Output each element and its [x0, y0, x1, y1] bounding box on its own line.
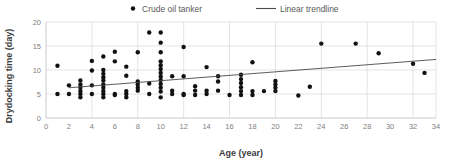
x-axis-title: Age (year) [219, 148, 263, 158]
data-point [239, 89, 243, 93]
x-tick-label: 28 [363, 122, 371, 131]
data-point [170, 74, 174, 78]
data-point [262, 89, 266, 93]
x-tick-label: 2 [67, 122, 71, 131]
data-point [124, 64, 128, 68]
x-tick-label: 26 [340, 122, 348, 131]
x-tick-label: 24 [317, 122, 325, 131]
data-point [67, 83, 71, 87]
data-point [159, 82, 163, 86]
data-point [101, 78, 105, 82]
x-tick-label: 4 [90, 122, 94, 131]
data-point [159, 95, 163, 99]
x-tick-label: 16 [225, 122, 233, 131]
data-point [90, 59, 94, 63]
data-point [354, 41, 358, 45]
data-point [250, 93, 254, 97]
x-tick-label: 10 [157, 122, 165, 131]
y-tick-label: 10 [33, 66, 41, 75]
data-point [204, 92, 208, 96]
data-point [55, 63, 59, 67]
scatter-chart: Crude oil tanker Linear trendline 051015… [0, 0, 450, 161]
data-point [296, 93, 300, 97]
x-tick-label: 14 [202, 122, 210, 131]
data-point [422, 71, 426, 75]
legend-label-trendline: Linear trendline [280, 4, 339, 14]
data-point [124, 95, 128, 99]
data-point [55, 92, 59, 96]
data-point [136, 50, 140, 54]
data-point [411, 62, 415, 66]
data-point [193, 93, 197, 97]
legend-label-series: Crude oil tanker [142, 4, 202, 14]
y-tick-label: 5 [37, 90, 41, 99]
x-tick-label: 12 [179, 122, 187, 131]
x-tick-label: 18 [248, 122, 256, 131]
y-tick-label: 20 [33, 18, 41, 27]
x-tick-label: 20 [271, 122, 279, 131]
data-point [204, 65, 208, 69]
data-point [170, 92, 174, 96]
data-point [159, 71, 163, 75]
data-point [239, 81, 243, 85]
legend-marker-dot [131, 6, 135, 10]
data-point [136, 88, 140, 92]
x-axis-tick-labels: 0246810121416182022242628303234 [44, 122, 440, 131]
x-tick-label: 0 [44, 122, 48, 131]
data-point [147, 92, 151, 96]
data-point [101, 95, 105, 99]
data-point [159, 86, 163, 90]
x-tick-label: 34 [432, 122, 440, 131]
data-point [159, 59, 163, 63]
y-tick-label: 15 [33, 42, 41, 51]
data-point [376, 51, 380, 55]
data-point [181, 93, 185, 97]
data-point [124, 74, 128, 78]
data-point [239, 85, 243, 89]
data-point [67, 92, 71, 96]
y-axis-title: Drydocking time (day) [4, 29, 14, 124]
x-tick-label: 32 [409, 122, 417, 131]
chart-legend: Crude oil tanker Linear trendline [131, 4, 339, 14]
y-tick-label: 0 [37, 114, 41, 123]
chart-canvas: Crude oil tanker Linear trendline 051015… [0, 0, 450, 161]
data-point [113, 93, 117, 97]
data-point [159, 63, 163, 67]
data-point [90, 92, 94, 96]
data-point [78, 78, 82, 82]
data-point [216, 88, 220, 92]
data-point [159, 50, 163, 54]
data-point [90, 68, 94, 72]
data-point [147, 30, 151, 34]
data-point [319, 41, 323, 45]
y-axis-tick-labels: 05101520 [33, 18, 41, 123]
data-point [159, 40, 163, 44]
data-point [101, 68, 105, 72]
data-point [159, 67, 163, 71]
x-tick-label: 22 [294, 122, 302, 131]
data-point [250, 89, 254, 93]
data-point [193, 88, 197, 92]
data-point [90, 83, 94, 87]
x-tick-label: 6 [113, 122, 117, 131]
x-tick-label: 8 [136, 122, 140, 131]
x-tick-label: 30 [386, 122, 394, 131]
data-point [239, 77, 243, 81]
data-point [308, 85, 312, 89]
data-point [273, 89, 277, 93]
data-point [101, 54, 105, 58]
data-point [250, 60, 254, 64]
data-point [239, 93, 243, 97]
data-point [181, 74, 185, 78]
data-point [159, 78, 163, 82]
data-point [216, 79, 220, 83]
data-point [181, 45, 185, 49]
data-point [227, 93, 231, 97]
data-point [193, 84, 197, 88]
data-point [78, 95, 82, 99]
data-point [113, 59, 117, 63]
data-point [113, 50, 117, 54]
data-points [55, 30, 426, 99]
data-point [159, 30, 163, 34]
data-point [159, 89, 163, 93]
